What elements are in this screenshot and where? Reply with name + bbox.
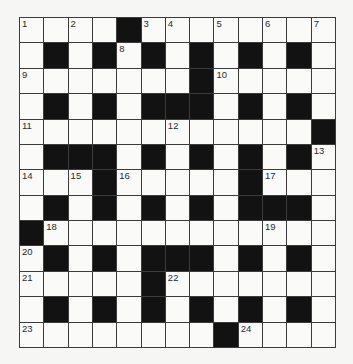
- grid-cell[interactable]: [166, 221, 189, 245]
- grid-cell[interactable]: [166, 69, 189, 93]
- grid-cell[interactable]: [44, 323, 67, 347]
- grid-cell[interactable]: [117, 221, 140, 245]
- grid-cell[interactable]: 10: [214, 69, 237, 93]
- grid-cell[interactable]: [263, 145, 286, 169]
- grid-cell[interactable]: [166, 323, 189, 347]
- grid-cell[interactable]: [142, 69, 165, 93]
- grid-cell[interactable]: [117, 145, 140, 169]
- grid-cell[interactable]: [190, 272, 213, 296]
- grid-cell[interactable]: [93, 69, 116, 93]
- grid-cell[interactable]: [166, 43, 189, 67]
- grid-cell[interactable]: [287, 170, 310, 194]
- grid-cell[interactable]: [117, 94, 140, 118]
- grid-cell[interactable]: [214, 297, 237, 321]
- grid-cell[interactable]: 14: [20, 170, 43, 194]
- grid-cell[interactable]: [20, 196, 43, 220]
- grid-cell[interactable]: [190, 120, 213, 144]
- grid-cell[interactable]: 3: [142, 18, 165, 42]
- grid-cell[interactable]: [214, 145, 237, 169]
- grid-cell[interactable]: [312, 272, 335, 296]
- grid-cell[interactable]: [20, 43, 43, 67]
- grid-cell[interactable]: [69, 196, 92, 220]
- grid-cell[interactable]: 2: [69, 18, 92, 42]
- grid-cell[interactable]: 21: [20, 272, 43, 296]
- grid-cell[interactable]: 7: [312, 18, 335, 42]
- grid-cell[interactable]: [312, 94, 335, 118]
- grid-cell[interactable]: 13: [312, 145, 335, 169]
- grid-cell[interactable]: [166, 145, 189, 169]
- grid-cell[interactable]: 8: [117, 43, 140, 67]
- grid-cell[interactable]: [239, 69, 262, 93]
- grid-cell[interactable]: [44, 120, 67, 144]
- grid-cell[interactable]: [117, 272, 140, 296]
- grid-cell[interactable]: [69, 94, 92, 118]
- grid-cell[interactable]: [20, 297, 43, 321]
- grid-cell[interactable]: [263, 323, 286, 347]
- grid-cell[interactable]: [93, 323, 116, 347]
- grid-cell[interactable]: [93, 221, 116, 245]
- grid-cell[interactable]: [312, 323, 335, 347]
- grid-cell[interactable]: 15: [69, 170, 92, 194]
- grid-cell[interactable]: [117, 323, 140, 347]
- grid-cell[interactable]: [142, 323, 165, 347]
- grid-cell[interactable]: [287, 323, 310, 347]
- grid-cell[interactable]: 5: [214, 18, 237, 42]
- grid-cell[interactable]: [44, 272, 67, 296]
- grid-cell[interactable]: [44, 18, 67, 42]
- grid-cell[interactable]: [142, 120, 165, 144]
- grid-cell[interactable]: 1: [20, 18, 43, 42]
- grid-cell[interactable]: [287, 69, 310, 93]
- grid-cell[interactable]: [117, 297, 140, 321]
- grid-cell[interactable]: [69, 221, 92, 245]
- grid-cell[interactable]: [287, 272, 310, 296]
- grid-cell[interactable]: [287, 221, 310, 245]
- grid-cell[interactable]: [117, 120, 140, 144]
- grid-cell[interactable]: 12: [166, 120, 189, 144]
- grid-cell[interactable]: [190, 170, 213, 194]
- grid-cell[interactable]: [166, 170, 189, 194]
- grid-cell[interactable]: [117, 69, 140, 93]
- grid-cell[interactable]: [214, 221, 237, 245]
- grid-cell[interactable]: 11: [20, 120, 43, 144]
- grid-cell[interactable]: [312, 170, 335, 194]
- grid-cell[interactable]: [239, 221, 262, 245]
- grid-cell[interactable]: [69, 272, 92, 296]
- grid-cell[interactable]: [44, 170, 67, 194]
- grid-cell[interactable]: [312, 297, 335, 321]
- grid-cell[interactable]: [69, 69, 92, 93]
- grid-cell[interactable]: [44, 69, 67, 93]
- grid-cell[interactable]: [214, 120, 237, 144]
- grid-cell[interactable]: [263, 272, 286, 296]
- grid-cell[interactable]: [69, 323, 92, 347]
- grid-cell[interactable]: [190, 18, 213, 42]
- grid-cell[interactable]: [69, 43, 92, 67]
- grid-cell[interactable]: [312, 246, 335, 270]
- grid-cell[interactable]: [69, 246, 92, 270]
- grid-cell[interactable]: [312, 43, 335, 67]
- grid-cell[interactable]: 19: [263, 221, 286, 245]
- grid-cell[interactable]: [214, 170, 237, 194]
- grid-cell[interactable]: [312, 69, 335, 93]
- grid-cell[interactable]: 24: [239, 323, 262, 347]
- grid-cell[interactable]: [239, 272, 262, 296]
- grid-cell[interactable]: [142, 170, 165, 194]
- grid-cell[interactable]: [239, 18, 262, 42]
- grid-cell[interactable]: [69, 120, 92, 144]
- grid-cell[interactable]: [239, 120, 262, 144]
- grid-cell[interactable]: [287, 120, 310, 144]
- grid-cell[interactable]: 4: [166, 18, 189, 42]
- grid-cell[interactable]: [93, 120, 116, 144]
- grid-cell[interactable]: [142, 221, 165, 245]
- grid-cell[interactable]: 20: [20, 246, 43, 270]
- grid-cell[interactable]: [214, 43, 237, 67]
- grid-cell[interactable]: [312, 196, 335, 220]
- grid-cell[interactable]: [166, 196, 189, 220]
- grid-cell[interactable]: [69, 297, 92, 321]
- grid-cell[interactable]: [93, 272, 116, 296]
- grid-cell[interactable]: [117, 246, 140, 270]
- grid-cell[interactable]: [214, 272, 237, 296]
- grid-cell[interactable]: [20, 145, 43, 169]
- grid-cell[interactable]: [214, 246, 237, 270]
- grid-cell[interactable]: [190, 323, 213, 347]
- grid-cell[interactable]: [214, 196, 237, 220]
